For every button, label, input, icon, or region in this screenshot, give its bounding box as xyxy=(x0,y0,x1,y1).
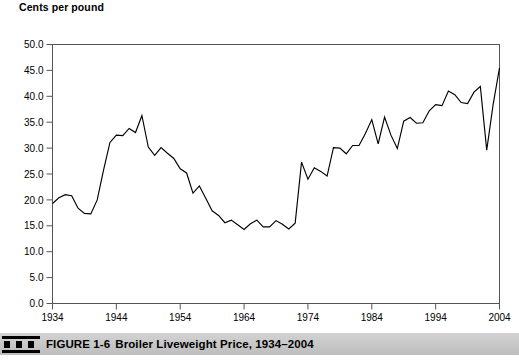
y-tick-label: 30.0 xyxy=(24,143,44,154)
x-tick-label: 1954 xyxy=(169,312,192,323)
figure-container: Cents per pound 0.05.010.015.020.025.030… xyxy=(0,0,519,360)
x-tick-label: 1934 xyxy=(41,312,64,323)
y-tick-label: 5.0 xyxy=(30,272,44,283)
axes-group xyxy=(47,45,500,310)
y-tick-label: 25.0 xyxy=(24,169,44,180)
chart-plot-area: 0.05.010.015.020.025.030.035.040.045.050… xyxy=(0,18,519,328)
figure-title: Broiler Liveweight Price, 1934–2004 xyxy=(115,338,313,350)
x-tick-label: 1974 xyxy=(297,312,320,323)
three-squares-icon xyxy=(2,336,40,353)
x-tick-label: 1984 xyxy=(361,312,384,323)
y-tick-label: 40.0 xyxy=(24,91,44,102)
x-tick-labels-group: 19341944195419641974198419942004 xyxy=(41,312,511,323)
y-tick-labels-group: 0.05.010.015.020.025.030.035.040.045.050… xyxy=(24,39,44,309)
plot-frame xyxy=(53,45,500,304)
y-tick-label: 45.0 xyxy=(24,65,44,76)
y-tick-label: 15.0 xyxy=(24,220,44,231)
x-tick-label: 1994 xyxy=(425,312,448,323)
data-series-group xyxy=(53,68,500,230)
series-line xyxy=(53,68,500,230)
y-tick-label: 35.0 xyxy=(24,117,44,128)
y-tick-label: 50.0 xyxy=(24,39,44,50)
x-tick-label: 2004 xyxy=(488,312,511,323)
line-chart-svg: 0.05.010.015.020.025.030.035.040.045.050… xyxy=(0,18,519,328)
figure-caption-bar: FIGURE 1-6Broiler Liveweight Price, 1934… xyxy=(0,333,519,355)
figure-caption-text: FIGURE 1-6Broiler Liveweight Price, 1934… xyxy=(46,338,314,350)
y-tick-label: 10.0 xyxy=(24,246,44,257)
y-tick-label: 20.0 xyxy=(24,195,44,206)
y-tick-label: 0.0 xyxy=(30,298,44,309)
x-tick-label: 1964 xyxy=(233,312,256,323)
y-axis-title: Cents per pound xyxy=(19,1,104,13)
figure-number: FIGURE 1-6 xyxy=(46,338,110,350)
x-tick-label: 1944 xyxy=(105,312,128,323)
